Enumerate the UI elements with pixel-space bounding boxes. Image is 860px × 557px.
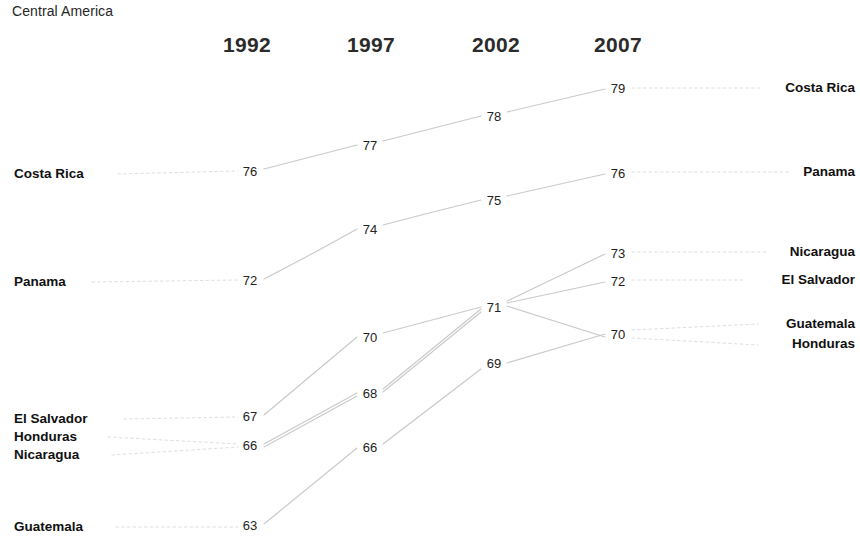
value-el-salvador-1992: 67	[237, 410, 263, 423]
slope-el-salvador-1997-2002	[383, 307, 481, 333]
slope-honduras-2002-2007	[507, 306, 605, 337]
value-costa-rica-2007: 79	[605, 82, 631, 95]
left-label-costa-rica: Costa Rica	[14, 167, 84, 181]
value-el-salvador-2007: 72	[605, 275, 631, 288]
left-label-honduras: Honduras	[14, 430, 77, 444]
slope-guatemala-2002-2007	[507, 334, 605, 363]
value-guatemala-1997: 66	[357, 441, 383, 454]
leader-left-costa-rica	[118, 171, 238, 174]
leader-left-el-salvador	[124, 417, 238, 419]
value-costa-rica-1997: 77	[357, 139, 383, 152]
slope-guatemala-1992-1997	[264, 448, 357, 524]
left-label-panama: Panama	[14, 275, 66, 289]
slope-costa-rica-2002-2007	[507, 89, 605, 112]
value-el-salvador-2002: 71	[481, 301, 507, 314]
slope-costa-rica-1992-1997	[264, 145, 357, 169]
leader-right-honduras	[632, 338, 758, 345]
slope-panama-2002-2007	[507, 174, 605, 196]
slope-chart: Central America 1992 1997 2002 2007	[0, 0, 860, 557]
value-nicaragua-1997: 68	[357, 387, 383, 400]
value-guatemala-2007: 70	[605, 328, 631, 341]
right-label-el-salvador: El Salvador	[781, 273, 855, 287]
value-guatemala-1992: 63	[237, 519, 263, 532]
right-label-costa-rica: Costa Rica	[785, 81, 855, 95]
value-nicaragua-2007: 73	[605, 247, 631, 260]
right-label-panama: Panama	[803, 165, 855, 179]
leader-left-panama	[92, 280, 238, 282]
value-panama-1997: 74	[357, 223, 383, 236]
slope-nicaragua-2002-2007	[507, 254, 605, 301]
slope-lines-layer	[0, 0, 860, 557]
right-label-honduras: Honduras	[792, 337, 855, 351]
slope-panama-1992-1997	[264, 229, 357, 279]
value-panama-1992: 72	[237, 274, 263, 287]
left-label-nicaragua: Nicaragua	[14, 448, 79, 462]
leader-left-honduras	[108, 437, 238, 444]
left-label-el-salvador: El Salvador	[14, 412, 88, 426]
slope-panama-1997-2002	[383, 200, 481, 225]
value-panama-2007: 76	[605, 167, 631, 180]
right-label-guatemala: Guatemala	[786, 317, 855, 331]
value-costa-rica-1992: 76	[237, 165, 263, 178]
value-guatemala-2002: 69	[481, 357, 507, 370]
left-label-guatemala: Guatemala	[14, 520, 83, 534]
value-panama-2002: 75	[481, 194, 507, 207]
value-costa-rica-2002: 78	[481, 110, 507, 123]
right-label-nicaragua: Nicaragua	[790, 245, 855, 259]
value-nicaragua-1992: 66	[237, 439, 263, 452]
slope-nicaragua-1992-1997	[264, 393, 357, 444]
leader-right-guatemala	[632, 324, 758, 330]
slope-costa-rica-1997-2002	[383, 116, 481, 141]
value-el-salvador-1997: 70	[357, 331, 383, 344]
slope-el-salvador-2002-2007	[507, 282, 605, 303]
slope-nicaragua-1997-2002	[383, 309, 481, 389]
leader-left-nicaragua	[112, 447, 238, 455]
